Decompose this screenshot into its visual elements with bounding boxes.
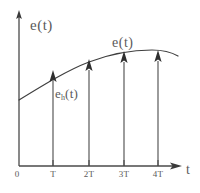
impulse-arrow-4T [154,50,161,166]
tick-label-4T: 4T [153,169,163,179]
tick-label-T: T [50,169,56,179]
impulse-head-4T [154,50,161,62]
x-axis-ticks [53,160,158,166]
sampled-signal-tail: (t) [65,86,78,101]
sampled-signal-label: eh(t) [55,87,78,100]
impulse-arrow-T [49,70,56,166]
x-axis-label: t [186,163,190,177]
signal-curve [19,50,178,100]
figure-container: e(t) e(t) eh(t) t 0 T 2T 3T 4T [0,0,200,193]
impulse-arrow-3T [120,51,127,166]
curve-label: e(t) [112,36,133,50]
y-axis-label: e(t) [30,18,53,33]
impulse-arrow-2T [85,59,92,166]
origin-label: 0 [15,169,20,179]
sampled-signal-subscript: h [61,93,65,102]
tick-label-3T: 3T [119,169,129,179]
tick-label-2T: 2T [84,169,94,179]
y-axis [16,10,22,166]
